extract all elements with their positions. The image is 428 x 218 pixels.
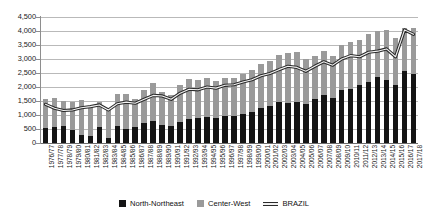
- y-axis-tick-label: 1,000: [2, 111, 36, 119]
- x-axis-tick-label: 2009/10: [344, 145, 351, 168]
- x-axis-tick-label: 1994/95: [210, 145, 217, 168]
- legend-item-center-west[interactable]: Center-West: [197, 199, 250, 208]
- x-axis-tick-label: 1979/80: [75, 145, 82, 168]
- x-axis-tick-label: 2005/06: [308, 145, 315, 168]
- y-axis-tick: [36, 45, 41, 46]
- legend-line-icon: [263, 202, 278, 206]
- legend-swatch-icon: [197, 200, 204, 207]
- y-axis-tick-label: 3,500: [2, 41, 36, 49]
- legend-swatch-icon: [119, 200, 126, 207]
- x-axis-tick-label: 1987/88: [147, 145, 154, 168]
- y-axis-tick-label: 4,000: [2, 27, 36, 35]
- x-axis-tick-label: 1998/99: [246, 145, 253, 168]
- legend-label: BRAZIL: [282, 199, 309, 208]
- x-axis-tick-label: 1993/94: [201, 145, 208, 168]
- chart-legend: North-Northeast Center-West BRAZIL: [0, 199, 428, 208]
- x-axis-tick-label: 1984/85: [120, 145, 127, 168]
- plot-area: [41, 17, 418, 143]
- brazil-line-series: [41, 17, 418, 143]
- y-axis-tick-label: 2,500: [2, 69, 36, 77]
- x-axis-tick-label: 1997/98: [237, 145, 244, 168]
- x-axis-tick-label: 1980/81: [84, 145, 91, 168]
- x-axis-tick-label: 2013/14: [380, 145, 387, 168]
- x-axis-tick-label: 2015/16: [398, 145, 405, 168]
- y-axis-tick: [36, 115, 41, 116]
- y-axis-tick-label: 2,000: [2, 83, 36, 91]
- x-axis-tick-label: 1989/90: [165, 145, 172, 168]
- chart-container: 4,5004,0003,5003,0002,5002,0001,5001,000…: [0, 0, 428, 218]
- x-axis-tick-label: 2002/03: [281, 145, 288, 168]
- y-axis-tick: [36, 101, 41, 102]
- y-axis-tick-label: 4,500: [2, 13, 36, 21]
- x-axis-tick-label: 1988/89: [156, 145, 163, 168]
- y-axis-labels: 4,5004,0003,5003,0002,5002,0001,5001,000…: [0, 0, 36, 218]
- y-axis-tick: [36, 17, 41, 18]
- x-axis-tick-label: 2011/12: [362, 145, 369, 168]
- x-axis-tick-label: 2000/01: [264, 145, 271, 168]
- x-axis-tick-label: 2006/07: [317, 145, 324, 168]
- y-axis-tick: [36, 59, 41, 60]
- x-axis-tick-label: 1976/77: [48, 145, 55, 168]
- x-axis-tick-label: 1983/84: [111, 145, 118, 168]
- x-axis-tick-label: 2017/18: [416, 145, 423, 168]
- x-axis-tick-label: 1991/92: [183, 145, 190, 168]
- x-axis-tick-label: 2003/04: [290, 145, 297, 168]
- x-axis-tick-label: 1977/78: [57, 145, 64, 168]
- y-axis-tick: [36, 31, 41, 32]
- x-axis-tick-label: 1978/79: [66, 145, 73, 168]
- x-axis-tick-label: 1986/87: [138, 145, 145, 168]
- x-axis-tick-label: 1982/83: [102, 145, 109, 168]
- y-axis-tick-label: 1,500: [2, 97, 36, 105]
- x-axis-tick-label: 2014/15: [389, 145, 396, 168]
- x-axis-tick-label: 2001/02: [272, 145, 279, 168]
- y-axis-tick: [36, 129, 41, 130]
- x-axis-tick-label: 1996/97: [228, 145, 235, 168]
- y-axis-tick: [36, 143, 41, 144]
- x-axis-tick-label: 1999/00: [255, 145, 262, 168]
- y-axis-tick-label: 3,000: [2, 55, 36, 63]
- y-axis-tick-label: 500: [2, 125, 36, 133]
- legend-label: Center-West: [208, 199, 250, 208]
- x-axis-labels: 1976/771977/781978/791979/801980/811981/…: [41, 145, 418, 195]
- x-axis-tick-label: 2008/09: [335, 145, 342, 168]
- x-axis-tick-label: 1981/82: [93, 145, 100, 168]
- y-axis-tick: [36, 87, 41, 88]
- x-axis-tick-label: 2012/13: [371, 145, 378, 168]
- legend-item-north-northeast[interactable]: North-Northeast: [119, 199, 184, 208]
- x-axis-tick-label: 2004/05: [299, 145, 306, 168]
- x-axis-tick-label: 1995/96: [219, 145, 226, 168]
- legend-label: North-Northeast: [130, 199, 184, 208]
- x-axis-tick-label: 1985/86: [129, 145, 136, 168]
- x-axis-tick-label: 1992/93: [192, 145, 199, 168]
- x-axis-tick-label: 2007/08: [326, 145, 333, 168]
- x-axis-tick-label: 2010/11: [353, 145, 360, 168]
- x-axis-tick-label: 1990/91: [174, 145, 181, 168]
- y-axis-tick: [36, 73, 41, 74]
- legend-item-brazil[interactable]: BRAZIL: [263, 199, 309, 208]
- x-axis-tick-label: 2016/17: [407, 145, 414, 168]
- y-axis-tick-label: 0: [2, 139, 36, 147]
